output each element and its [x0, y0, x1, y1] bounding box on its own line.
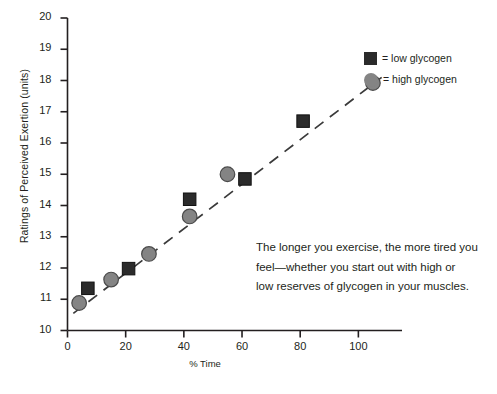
annotation-line-3: low reserves of glycogen in your muscles… [256, 277, 488, 297]
x-tick-label: 20 [111, 340, 141, 352]
data-point-square [183, 193, 196, 206]
y-tick-label: 18 [28, 73, 52, 85]
data-point-square [82, 282, 95, 295]
chart-annotation: The longer you exercise, the more tired … [256, 238, 488, 297]
y-tick-label: 16 [28, 135, 52, 147]
y-tick-label: 19 [28, 41, 52, 53]
square-marker-icon [364, 52, 377, 65]
y-tick-label: 17 [28, 104, 52, 116]
y-tick-label: 13 [28, 229, 52, 241]
annotation-line-2: feel—whether you start out with high or [256, 258, 488, 278]
y-tick-label: 15 [28, 166, 52, 178]
data-point-circle [142, 247, 157, 262]
x-tick-label: 100 [343, 340, 373, 352]
y-tick-label: 10 [28, 323, 52, 335]
x-tick-label: 40 [169, 340, 199, 352]
circle-marker-icon [364, 73, 378, 87]
chart-legend: = low glycogen = high glycogen [364, 48, 457, 90]
data-point-square [122, 262, 135, 275]
x-tick-label: 0 [53, 340, 83, 352]
y-tick-label: 20 [28, 10, 52, 22]
x-axis-ticks [68, 331, 359, 338]
y-axis-title: Ratings of Perceived Exertion (units) [18, 46, 30, 266]
y-tick-label: 11 [28, 291, 52, 303]
chart-figure: 1011121314151617181920 020406080100 Rati… [0, 0, 497, 394]
legend-label-low-glycogen: = low glycogen [382, 48, 452, 69]
legend-label-high-glycogen: = high glycogen [383, 69, 457, 90]
data-point-circle [182, 209, 197, 224]
legend-item-low-glycogen: = low glycogen [364, 48, 457, 69]
annotation-line-1: The longer you exercise, the more tired … [256, 238, 488, 258]
legend-item-high-glycogen: = high glycogen [364, 69, 457, 90]
x-tick-label: 80 [285, 340, 315, 352]
y-tick-label: 14 [28, 198, 52, 210]
data-point-circle [72, 296, 87, 311]
y-tick-label: 12 [28, 260, 52, 272]
y-axis-ticks [61, 18, 68, 331]
x-tick-label: 60 [227, 340, 257, 352]
data-point-circle [104, 272, 119, 287]
x-axis-title: % Time [170, 358, 240, 369]
data-point-square [297, 115, 310, 128]
data-point-circle [220, 167, 235, 182]
data-point-square [239, 173, 252, 186]
